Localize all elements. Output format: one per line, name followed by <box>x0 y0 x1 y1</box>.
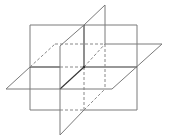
intersection-point <box>83 66 85 68</box>
three-planes-diagram <box>0 0 171 139</box>
